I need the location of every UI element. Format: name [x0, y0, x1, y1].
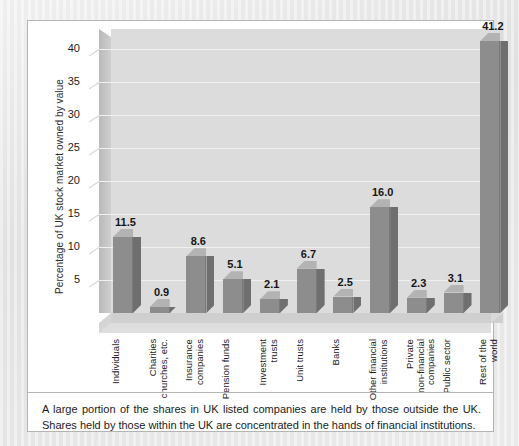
- bar-front-face: [370, 207, 390, 313]
- grid-line-side: [89, 181, 100, 189]
- bar-side-face: [390, 207, 398, 313]
- figure-panel: Percentage of UK stock market owned by v…: [27, 20, 494, 432]
- bar-value-label: 8.6: [191, 235, 206, 247]
- grid-line-side: [89, 49, 100, 57]
- x-axis-label: Rest of the world: [478, 339, 499, 385]
- bar-top-face: [407, 290, 427, 298]
- bar-column[interactable]: 41.2: [480, 41, 500, 313]
- x-axis-label: Investment trusts: [258, 339, 279, 385]
- bar-column[interactable]: 3.1: [444, 293, 464, 313]
- grid-line-side: [89, 280, 100, 288]
- bar-value-label: 41.2: [482, 20, 503, 32]
- bar-column[interactable]: 6.7: [297, 269, 317, 313]
- bar-value-label: 2.3: [411, 277, 426, 289]
- bar-top-face: [333, 289, 353, 297]
- bar-value-label: 3.1: [448, 272, 463, 284]
- bar-chart: Percentage of UK stock market owned by v…: [28, 21, 493, 392]
- bar-value-label: 16.0: [372, 186, 393, 198]
- bar-top-face: [297, 261, 317, 269]
- y-tick-label: 25: [54, 141, 80, 153]
- grid-line-side: [89, 115, 100, 123]
- bar-side-face: [427, 298, 435, 313]
- bar-side-face: [206, 256, 214, 313]
- bar-value-label: 2.1: [264, 278, 279, 290]
- bar-value-label: 6.7: [301, 248, 316, 260]
- bar-column[interactable]: 2.5: [333, 297, 353, 314]
- bar-column[interactable]: 11.5: [113, 237, 133, 313]
- bar-value-label: 0.9: [154, 286, 169, 298]
- x-axis-label: Pension funds: [221, 339, 232, 399]
- screenshot-root: Percentage of UK stock market owned by v…: [0, 0, 519, 446]
- x-axis-label: Private non-financial companies: [405, 339, 437, 393]
- bar-front-face: [113, 237, 133, 313]
- x-axis-label: Unit trusts: [295, 339, 306, 382]
- bar-side-face: [500, 41, 508, 313]
- x-axis-label: Insurance companies: [184, 339, 205, 385]
- bar-value-label: 2.5: [338, 276, 353, 288]
- y-tick-label: 10: [54, 240, 80, 252]
- x-axis-label: Public sector: [442, 339, 453, 393]
- grid-line-side: [89, 148, 100, 156]
- bar-series: 11.50.98.65.12.16.72.516.02.33.141.2: [99, 29, 503, 333]
- bar-column[interactable]: 2.1: [260, 299, 280, 313]
- grid-line-side: [89, 214, 100, 222]
- bar-top-face: [260, 291, 280, 299]
- y-tick-label: 30: [54, 108, 80, 120]
- bar-side-face: [464, 293, 472, 313]
- bar-value-label: 11.5: [115, 216, 136, 228]
- bar-top-face: [370, 199, 390, 207]
- bar-top-face: [480, 33, 500, 41]
- bar-side-face: [170, 307, 178, 313]
- bar-column[interactable]: 5.1: [223, 279, 243, 313]
- caption-divider: [28, 392, 493, 393]
- bar-side-face: [317, 269, 325, 313]
- bar-front-face: [444, 293, 464, 313]
- bar-front-face: [480, 41, 500, 313]
- bar-front-face: [186, 256, 206, 313]
- x-axis-label: Banks: [331, 339, 342, 365]
- y-tick-label: 35: [54, 75, 80, 87]
- x-axis-label: Individuals: [111, 339, 122, 384]
- bar-column[interactable]: 16.0: [370, 207, 390, 313]
- x-axis-label: Charities churches, etc.: [148, 339, 169, 398]
- y-tick-label: 40: [54, 42, 80, 54]
- bar-front-face: [150, 307, 170, 313]
- grid-line-side: [89, 247, 100, 255]
- y-tick-label: 5: [54, 273, 80, 285]
- bar-top-face: [150, 299, 170, 307]
- bar-side-face: [353, 297, 361, 314]
- bar-side-face: [280, 299, 288, 313]
- bar-column[interactable]: 2.3: [407, 298, 427, 313]
- bar-front-face: [297, 269, 317, 313]
- bar-top-face: [223, 271, 243, 279]
- bar-front-face: [333, 297, 353, 314]
- bar-value-label: 5.1: [227, 258, 242, 270]
- bar-top-face: [444, 285, 464, 293]
- bar-top-face: [186, 248, 206, 256]
- bar-side-face: [133, 237, 141, 313]
- bar-front-face: [407, 298, 427, 313]
- bar-side-face: [243, 279, 251, 313]
- bar-column[interactable]: 8.6: [186, 256, 206, 313]
- y-tick-label: 20: [54, 174, 80, 186]
- bar-top-face: [113, 229, 133, 237]
- bar-front-face: [223, 279, 243, 313]
- bar-column[interactable]: 0.9: [150, 307, 170, 313]
- bar-front-face: [260, 299, 280, 313]
- grid-line-side: [89, 82, 100, 90]
- y-tick-label: 15: [54, 207, 80, 219]
- figure-caption: A large portion of the shares in UK list…: [42, 401, 481, 433]
